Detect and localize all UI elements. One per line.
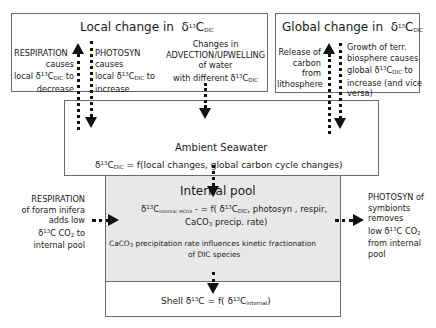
internal-to-shell-arrow-icon — [207, 283, 219, 294]
internal-pool-box: Internal pool δ13Cinternal, HCO3 - = f( … — [105, 175, 341, 282]
ambient-seawater-equation: δ13CDIC = f(local changes, global carbon… — [95, 161, 343, 171]
symbiont-photosynthesis-note: PHOTOSYN of symbionts removes low δ13C C… — [368, 192, 436, 259]
respiration-local-text: RESPIRATION causes local δ13CDIC to decr… — [14, 48, 74, 94]
growth-biosphere-text: Growth of terr. biosphere causes global … — [347, 42, 422, 99]
advection-text: Changes in ADVECTION/UPWELLING of water … — [163, 39, 268, 85]
local-change-title: Local change in δ13CDIC — [80, 21, 214, 34]
advection-down-arrow-icon — [199, 108, 211, 119]
internal-to-shell-dotted-line — [212, 272, 218, 282]
release-carbon-text: Release of carbon from lithosphere — [277, 47, 321, 89]
advection-dotted-line — [204, 83, 210, 108]
right-right-arrow-icon — [353, 214, 364, 226]
release-up-arrow-icon — [323, 43, 335, 54]
foraminifera-respiration-note: RESPIRATION of foram inifera adds low δ1… — [5, 194, 85, 251]
calcification-note-2: of DIC species — [188, 251, 240, 258]
internal-pool-equation-2: CaCO3 precip. rate) — [185, 218, 267, 228]
internal-pool-equation-1: δ13Cinternal, HCO3 - = f( δ13CDIC, photo… — [141, 205, 327, 215]
photosyn-down-arrow-icon — [85, 117, 97, 128]
calcification-note-1: CaCO3 precipitation rate influences kine… — [109, 240, 316, 249]
right-horizontal-dotted-line — [335, 219, 353, 225]
growth-dotted-line — [339, 43, 345, 119]
shell-box: Shell δ13C = f( δ13Cinternal) — [105, 281, 341, 317]
ambient-to-internal-arrow-icon — [207, 186, 219, 197]
photosyn-local-text: PHOTOSYN causes local δ13CDIC to increas… — [95, 48, 165, 94]
global-change-box: Global change in δ13CDIC Release of carb… — [275, 13, 420, 93]
respiration-up-arrow-icon — [72, 43, 84, 54]
respiration-dotted-line — [77, 54, 83, 130]
ambient-seawater-title: Ambient Seawater — [175, 143, 267, 153]
photosyn-dotted-line — [90, 41, 96, 117]
growth-down-arrow-icon — [334, 118, 346, 129]
left-right-arrow-icon — [108, 214, 119, 226]
ambient-to-internal-dotted-line — [212, 165, 218, 186]
global-change-title: Global change in δ13CDIC — [282, 21, 423, 34]
shell-equation: Shell δ13C = f( δ13Cinternal) — [161, 297, 271, 307]
local-change-box: Local change in δ13CDIC RESPIRATION caus… — [11, 13, 268, 92]
